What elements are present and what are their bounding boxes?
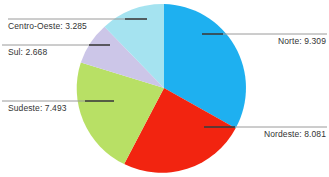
pie-label-nordeste: Nordeste: 8.081 bbox=[264, 129, 326, 139]
pie-label-norte: Norte: 9.309 bbox=[278, 36, 326, 46]
pie-label-sul: Sul: 2.668 bbox=[8, 47, 47, 57]
pie-label-sudeste: Sudeste: 7.493 bbox=[8, 103, 67, 113]
pie-chart-figure: Centro-Oeste: 3.285 Sul: 2.668 Sudeste: … bbox=[0, 0, 329, 177]
pie-label-centro-oeste: Centro-Oeste: 3.285 bbox=[8, 21, 87, 31]
pie-slices bbox=[77, 4, 246, 173]
